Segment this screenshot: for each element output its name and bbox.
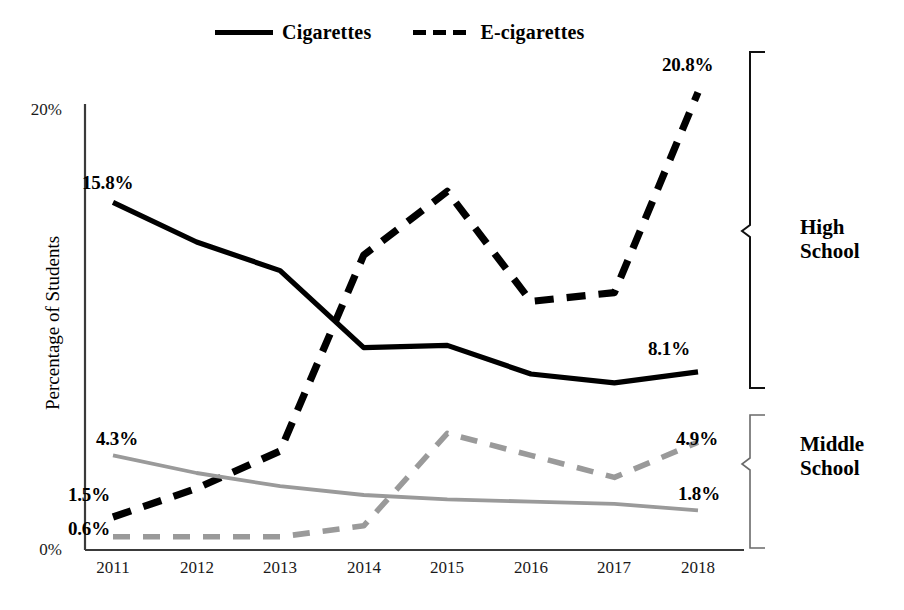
annotation-hs-cig-end: 8.1% xyxy=(648,338,690,360)
annotation-hs-cig-start: 15.8% xyxy=(82,172,133,194)
series-line-high-school-ecigarettes xyxy=(113,92,698,517)
group-label-middle-school-line2: School xyxy=(800,456,864,480)
plot-area xyxy=(0,0,904,610)
group-label-high-school: High School xyxy=(800,215,860,264)
bracket-high-school xyxy=(742,52,765,388)
group-label-high-school-line1: High xyxy=(800,215,860,239)
annotation-ms-ecig-start: 0.6% xyxy=(68,518,110,540)
group-label-high-school-line2: School xyxy=(800,239,860,263)
series-line-middle-school-ecigarettes xyxy=(113,433,698,536)
annotation-ms-cig-start: 4.3% xyxy=(96,428,138,450)
bracket-middle-school xyxy=(742,415,765,548)
annotation-hs-ecig-end: 20.8% xyxy=(662,54,713,76)
group-label-middle-school-line1: Middle xyxy=(800,432,864,456)
group-label-middle-school: Middle School xyxy=(800,432,864,481)
annotation-ms-ecig-end: 4.9% xyxy=(676,428,718,450)
annotation-hs-ecig-start: 1.5% xyxy=(68,484,110,506)
annotation-ms-cig-end: 1.8% xyxy=(678,483,720,505)
chart-figure: Cigarettes E-cigarettes Percentage of St… xyxy=(0,0,904,610)
